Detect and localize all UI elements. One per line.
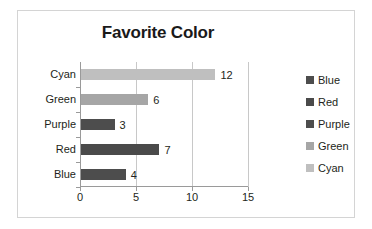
bar-row-cyan[interactable]: 12 <box>81 62 233 87</box>
legend-swatch-icon-blue <box>306 76 314 84</box>
y-tick-1 <box>76 112 80 113</box>
y-axis-label-blue: Blue <box>20 168 76 180</box>
y-axis-label-red: Red <box>20 143 76 155</box>
legend-label-purple: Purple <box>318 118 350 130</box>
bar-row-red[interactable]: 7 <box>81 137 171 162</box>
bar-value-label-green: 6 <box>153 94 159 106</box>
legend-label-blue: Blue <box>318 74 340 86</box>
y-tick-3 <box>76 162 80 163</box>
legend-label-red: Red <box>318 96 338 108</box>
bar-value-label-red: 7 <box>164 144 170 156</box>
bar-value-label-blue: 4 <box>131 169 137 181</box>
y-tick-0 <box>76 87 80 88</box>
bar-row-purple[interactable]: 3 <box>81 112 126 137</box>
bar-row-green[interactable]: 6 <box>81 87 159 112</box>
y-axis-label-purple: Purple <box>20 118 76 130</box>
bar-blue[interactable] <box>81 169 126 180</box>
bar-red[interactable] <box>81 144 159 155</box>
x-axis-label-15: 15 <box>242 191 254 203</box>
chart-container: Favorite Color CyanGreenPurpleRedBlue 12… <box>17 10 355 218</box>
legend-swatch-icon-red <box>306 98 314 106</box>
bar-purple[interactable] <box>81 119 115 130</box>
y-axis-label-cyan: Cyan <box>20 68 76 80</box>
chart-legend: BlueRedPurpleGreenCyan <box>306 69 372 179</box>
legend-swatch-icon-green <box>306 142 314 150</box>
legend-label-cyan: Cyan <box>318 162 344 174</box>
legend-swatch-icon-purple <box>306 120 314 128</box>
plot-area: 126374 <box>80 62 248 187</box>
x-axis-label-10: 10 <box>186 191 198 203</box>
legend-item-green[interactable]: Green <box>306 135 372 157</box>
x-axis-tick-labels: 051015 <box>80 187 248 207</box>
x-axis-label-5: 5 <box>133 191 139 203</box>
y-axis-label-green: Green <box>20 93 76 105</box>
legend-item-cyan[interactable]: Cyan <box>306 157 372 179</box>
bar-cyan[interactable] <box>81 69 215 80</box>
chart-title: Favorite Color <box>18 23 298 43</box>
y-axis-category-labels: CyanGreenPurpleRedBlue <box>18 62 76 187</box>
y-tick-2 <box>76 137 80 138</box>
legend-item-blue[interactable]: Blue <box>306 69 372 91</box>
bar-row-blue[interactable]: 4 <box>81 162 137 187</box>
x-axis-label-0: 0 <box>77 191 83 203</box>
legend-item-purple[interactable]: Purple <box>306 113 372 135</box>
legend-swatch-icon-cyan <box>306 164 314 172</box>
y-axis-line <box>80 62 81 187</box>
gridline-15 <box>248 62 249 187</box>
legend-item-red[interactable]: Red <box>306 91 372 113</box>
bar-value-label-purple: 3 <box>120 119 126 131</box>
legend-label-green: Green <box>318 140 349 152</box>
bar-value-label-cyan: 12 <box>220 69 232 81</box>
bar-green[interactable] <box>81 94 148 105</box>
